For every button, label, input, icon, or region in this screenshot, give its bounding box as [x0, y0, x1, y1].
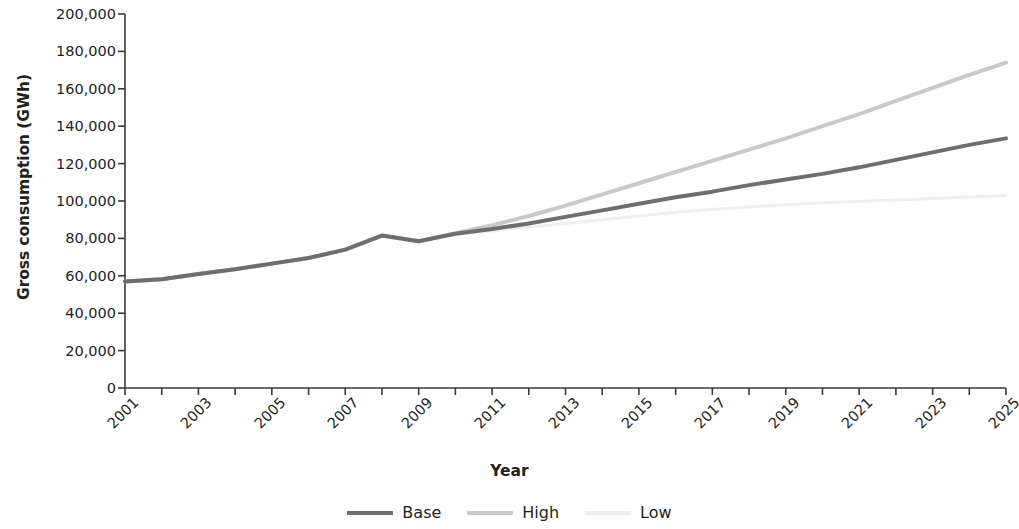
y-tick-label: 60,000	[65, 269, 116, 284]
x-tick-label: 2023	[912, 395, 949, 432]
x-tick-label: 2011	[472, 395, 509, 432]
series-line-base	[125, 138, 1006, 281]
y-tick-label: 40,000	[65, 306, 116, 321]
legend-item-high[interactable]: High	[467, 505, 559, 521]
x-axis-title: Year	[0, 462, 1019, 480]
x-tick-label: 2025	[986, 395, 1019, 432]
legend-item-low[interactable]: Low	[585, 505, 672, 521]
series-line-low	[125, 195, 1006, 281]
legend-swatch-low	[585, 511, 631, 515]
legend-label-low: Low	[640, 505, 672, 521]
x-tick-label: 2015	[619, 395, 656, 432]
y-tick-label: 20,000	[65, 343, 116, 358]
x-tick-label: 2005	[252, 395, 289, 432]
y-tick-label: 200,000	[56, 7, 116, 22]
x-tick-label: 2001	[105, 395, 142, 432]
x-axis-tick-labels: 2001200320052007200920112013201520172019…	[0, 395, 1019, 465]
y-tick-label: 180,000	[56, 44, 116, 59]
y-tick-label: 140,000	[56, 119, 116, 134]
x-tick-label: 2003	[178, 395, 215, 432]
x-tick-label: 2017	[692, 395, 729, 432]
chart-series-lines	[125, 14, 1006, 388]
chart-figure: Gross consumption (GWh) 020,00040,00060,…	[0, 0, 1019, 529]
legend-swatch-base	[347, 511, 393, 515]
x-tick-label: 2013	[545, 395, 582, 432]
y-axis-tick-labels: 020,00040,00060,00080,000100,000120,0001…	[0, 0, 116, 400]
x-tick-label: 2009	[399, 395, 436, 432]
legend-label-high: High	[522, 505, 559, 521]
legend-swatch-high	[467, 511, 513, 515]
y-tick-label: 0	[107, 381, 116, 396]
y-tick-label: 100,000	[56, 194, 116, 209]
y-tick-label: 80,000	[65, 231, 116, 246]
x-tick-label: 2021	[839, 395, 876, 432]
series-line-high	[125, 63, 1006, 282]
plot-area	[125, 14, 1006, 388]
x-tick-label: 2007	[325, 395, 362, 432]
y-tick-label: 120,000	[56, 156, 116, 171]
x-tick-label: 2019	[766, 395, 803, 432]
y-tick-label: 160,000	[56, 82, 116, 97]
chart-legend: BaseHighLow	[0, 500, 1019, 526]
legend-label-base: Base	[402, 505, 441, 521]
legend-item-base[interactable]: Base	[347, 505, 441, 521]
